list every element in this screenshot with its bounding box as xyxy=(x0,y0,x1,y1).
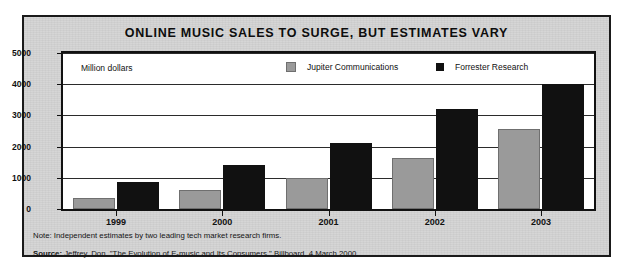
x-tick-mark xyxy=(222,211,223,216)
y-tick-label: 3000 xyxy=(0,110,31,120)
x-tick-mark xyxy=(116,211,117,216)
gridline xyxy=(63,115,594,116)
y-tick-mark xyxy=(57,84,62,85)
gridline xyxy=(63,84,594,85)
x-tick-label-2000: 2000 xyxy=(182,217,262,227)
chart-legend: Million dollars Jupiter CommunicationsFo… xyxy=(81,62,586,76)
bar-jupiter-2002 xyxy=(392,158,434,209)
bar-forrester-2001 xyxy=(330,143,372,209)
x-tick-label-2002: 2002 xyxy=(395,217,475,227)
legend-label: Jupiter Communications xyxy=(307,62,398,72)
bar-forrester-2000 xyxy=(223,165,265,209)
legend-label: Forrester Research xyxy=(455,62,528,72)
legend-swatch-icon xyxy=(286,62,296,72)
y-tick-mark xyxy=(57,53,62,54)
bar-jupiter-2000 xyxy=(179,190,221,209)
chart-source: Source: Jeffrey, Don. "The Evolution of … xyxy=(33,249,359,258)
y-tick-label: 4000 xyxy=(0,79,31,89)
x-tick-label-1999: 1999 xyxy=(76,217,156,227)
y-tick-mark xyxy=(57,115,62,116)
source-label: Source: xyxy=(33,249,64,258)
y-tick-label: 2000 xyxy=(0,142,31,152)
chart-card: ONLINE MUSIC SALES TO SURGE, BUT ESTIMAT… xyxy=(22,15,611,257)
y-tick-label: 5000 xyxy=(0,48,31,58)
y-tick-label: 0 xyxy=(0,204,31,214)
legend-swatch-icon xyxy=(436,63,444,71)
chart-note: Note: Independent estimates by two leadi… xyxy=(33,231,281,240)
y-tick-label: 1000 xyxy=(0,173,31,183)
gridline xyxy=(63,53,594,54)
note-text: Independent estimates by two leading tec… xyxy=(54,231,282,240)
bar-forrester-2003 xyxy=(542,84,584,209)
bar-jupiter-2001 xyxy=(286,178,328,209)
legend-entry-jupiter[interactable]: Jupiter Communications xyxy=(286,62,398,72)
legend-entry-forrester[interactable]: Forrester Research xyxy=(436,62,528,72)
note-label: Note: xyxy=(33,231,54,240)
chart-screenshot: ONLINE MUSIC SALES TO SURGE, BUT ESTIMAT… xyxy=(0,0,633,269)
bar-jupiter-1999 xyxy=(73,198,115,209)
y-tick-mark xyxy=(57,178,62,179)
bar-forrester-1999 xyxy=(117,182,159,209)
x-tick-mark xyxy=(541,211,542,216)
plot-frame: Million dollars Jupiter CommunicationsFo… xyxy=(61,51,596,211)
y-tick-mark xyxy=(57,147,62,148)
bar-forrester-2002 xyxy=(436,109,478,209)
plot-area: Million dollars Jupiter CommunicationsFo… xyxy=(63,53,594,209)
x-tick-mark xyxy=(435,211,436,216)
y-tick-mark xyxy=(57,209,62,210)
legend-units-label: Million dollars xyxy=(81,63,133,73)
page-title: ONLINE MUSIC SALES TO SURGE, BUT ESTIMAT… xyxy=(24,26,609,40)
x-tick-label-2001: 2001 xyxy=(289,217,369,227)
x-tick-mark xyxy=(329,211,330,216)
source-text: Jeffrey, Don. "The Evolution of E-music … xyxy=(64,249,358,258)
x-tick-label-2003: 2003 xyxy=(501,217,581,227)
bar-jupiter-2003 xyxy=(498,129,540,209)
